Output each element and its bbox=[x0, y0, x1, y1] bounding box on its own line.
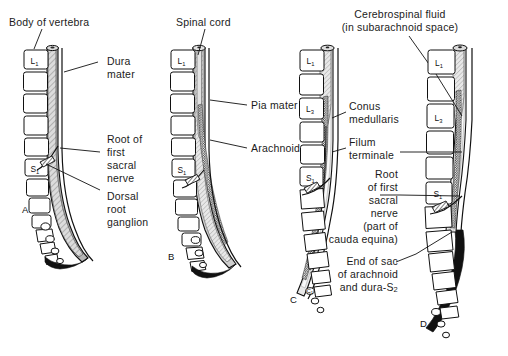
anatomy-figure: L1 S1 bbox=[0, 0, 508, 356]
label-end-of-sac-line2: of arachnoid bbox=[296, 268, 398, 280]
panel-letter-d: D bbox=[420, 318, 427, 329]
label-dorsal-root-ganglion-line3: ganglion bbox=[107, 216, 148, 228]
label-arachnoid: Arachnoid bbox=[251, 142, 300, 154]
label-filum-terminale-line1: Filum bbox=[349, 136, 376, 148]
label-end-of-sac-subscript: 2 bbox=[394, 285, 398, 294]
label-end-of-sac-line1: End of sac bbox=[296, 255, 398, 267]
label-cauda-line2: of first bbox=[300, 181, 398, 193]
label-dura-mater-line2: mater bbox=[107, 68, 135, 80]
label-cauda-line5: (part of bbox=[300, 220, 398, 232]
panel-a-artwork: L1 S1 bbox=[24, 29, 101, 269]
figure-artwork: L1 S1 bbox=[0, 0, 508, 356]
label-cauda-line3: sacral bbox=[300, 194, 398, 206]
label-dura-mater-line1: Dura bbox=[107, 55, 131, 67]
label-conus-medullaris-line2: medullaris bbox=[349, 113, 399, 125]
panel-letter-b: B bbox=[168, 251, 174, 262]
label-dorsal-root-ganglion-line2: root bbox=[107, 203, 126, 215]
label-end-of-sac-line3-text: and dura-S bbox=[340, 281, 394, 293]
label-root-first-sacral-line4: nerve bbox=[107, 172, 134, 184]
label-csf-line1: Cerebrospinal fluid bbox=[312, 8, 488, 20]
label-root-first-sacral-line3: sacral bbox=[107, 159, 136, 171]
label-cauda-line1: Root bbox=[300, 168, 398, 180]
label-cauda-line4: nerve bbox=[300, 207, 398, 219]
label-end-of-sac-line3: and dura-S2 bbox=[296, 281, 398, 297]
label-filum-terminale-line2: terminale bbox=[349, 149, 394, 161]
label-pia-mater: Pia mater bbox=[251, 99, 298, 111]
panel-d-artwork: L1 L3 S1 bbox=[400, 45, 472, 338]
label-cauda-line6: cauda equina) bbox=[288, 233, 398, 245]
panel-c-cord-cut-inner bbox=[326, 47, 330, 49]
label-root-first-sacral-line2: first bbox=[107, 146, 125, 158]
label-csf-line2: (in subarachnoid space) bbox=[312, 21, 488, 33]
label-spinal-cord: Spinal cord bbox=[176, 16, 231, 28]
panel-letter-a: A bbox=[22, 204, 28, 215]
label-dorsal-root-ganglion-line1: Dorsal bbox=[107, 190, 139, 202]
panel-b-artwork: L1 S1 bbox=[171, 29, 248, 278]
label-body-of-vertebra: Body of vertebra bbox=[9, 16, 89, 28]
label-conus-medullaris-line1: Conus bbox=[349, 100, 380, 112]
panel-a-cord-cut-inner bbox=[50, 47, 54, 49]
panel-d-cord-cut-inner bbox=[458, 46, 462, 48]
label-root-first-sacral-line1: Root of bbox=[107, 133, 142, 145]
panel-letter-c: C bbox=[290, 294, 297, 305]
